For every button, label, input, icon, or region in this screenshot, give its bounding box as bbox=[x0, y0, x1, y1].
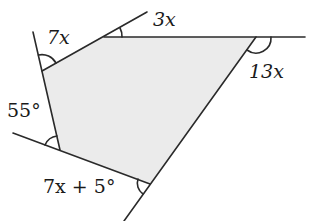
angle-arc-b bbox=[120, 28, 122, 37]
angle-label-d: 7x + 5° bbox=[43, 177, 115, 196]
angle-label-b: 3x bbox=[153, 10, 176, 29]
angle-arc-e bbox=[45, 136, 57, 145]
angle-label-c: 13x bbox=[249, 62, 284, 81]
angle-arc-a bbox=[39, 55, 57, 63]
pentagon-shape bbox=[42, 37, 256, 184]
angle-label-e: 55° bbox=[7, 101, 41, 120]
angle-label-a: 7x bbox=[47, 28, 70, 47]
